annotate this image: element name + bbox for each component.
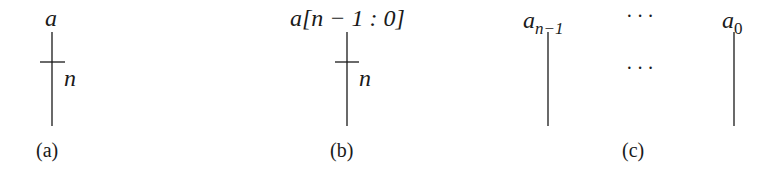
panel-b-signal-name: a <box>290 5 302 31</box>
panel-b-caption: (b) <box>330 140 353 160</box>
panel-c-right-subscript: 0 <box>734 19 743 38</box>
panel-a-width-label: n <box>64 66 76 90</box>
panel-b-signal-label: a[n − 1 : 0] <box>290 6 405 30</box>
panel-b-signal-range: [n − 1 : 0] <box>302 5 405 31</box>
panel-a-caption: (a) <box>36 140 58 160</box>
panel-c-left-label: an−1 <box>523 8 563 32</box>
panel-c-left-name: a <box>523 7 535 33</box>
panel-b-width-label: n <box>359 66 371 90</box>
panel-c-caption: (c) <box>622 140 644 160</box>
panel-a-signal-label: a <box>45 6 57 30</box>
panel-c-right-label: a0 <box>722 8 743 32</box>
panel-c-left-subscript: n−1 <box>535 19 563 38</box>
panel-c-ellipsis-middle: ··· <box>626 58 658 78</box>
panel-c-ellipsis-top: ··· <box>626 6 658 26</box>
panel-c-right-name: a <box>722 7 734 33</box>
